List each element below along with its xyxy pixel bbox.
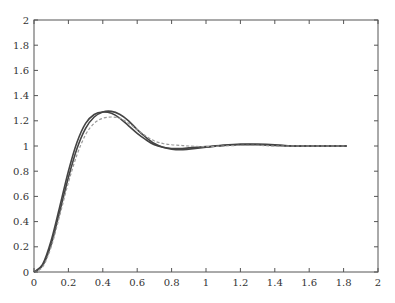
x-tick-label: 1.4 (267, 277, 283, 288)
y-tick-label: 1.6 (13, 65, 29, 76)
x-axis-ticks: 00.20.40.60.811.21.41.61.82 (31, 20, 381, 288)
x-tick-label: 1.6 (301, 277, 317, 288)
y-tick-label: 1.2 (13, 115, 29, 126)
x-tick-label: 0 (31, 277, 37, 288)
x-tick-label: 0.6 (129, 277, 145, 288)
x-tick-label: 0.4 (95, 277, 111, 288)
x-tick-label: 2 (375, 277, 381, 288)
y-tick-label: 2 (23, 15, 29, 26)
y-tick-label: 1.8 (13, 40, 29, 51)
series-layer (34, 111, 347, 272)
x-tick-label: 0.2 (60, 277, 76, 288)
x-tick-label: 1 (203, 277, 209, 288)
y-tick-label: 0 (23, 267, 29, 278)
response-2-line (34, 111, 347, 272)
x-tick-label: 1.2 (232, 277, 248, 288)
y-tick-label: 0.4 (13, 216, 29, 227)
x-tick-label: 0.8 (164, 277, 180, 288)
response-3-line (34, 117, 347, 272)
step-response-chart: 00.20.40.60.811.21.41.61.82 00.20.40.60.… (0, 0, 395, 303)
x-tick-label: 1.8 (336, 277, 352, 288)
response-1-line (34, 112, 347, 272)
y-tick-label: 1.4 (13, 90, 29, 101)
y-tick-label: 0.6 (13, 191, 29, 202)
y-tick-label: 1 (23, 141, 29, 152)
y-tick-label: 0.8 (13, 166, 29, 177)
y-tick-label: 0.2 (13, 241, 29, 252)
